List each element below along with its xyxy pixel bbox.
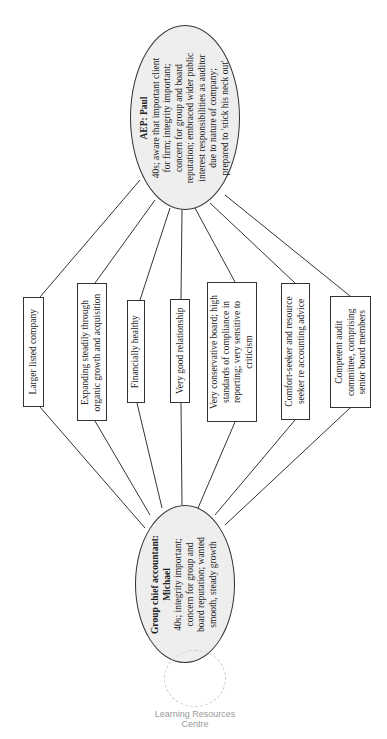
auditor-line: for firm; integrity important; — [162, 52, 174, 183]
factor-box-relationship: Very good relationship — [170, 299, 190, 403]
auditor-ellipse: AEP: Paul 40s; aware that important clie… — [130, 25, 240, 210]
factor-box-audit-committee: Competent auditcommittee, comprisingseni… — [330, 296, 371, 408]
watermark-line: Learning Resources — [150, 709, 240, 719]
auditor-line: reputation; embraced wider public — [185, 52, 197, 183]
auditor-line: due to nature of company; — [208, 52, 220, 183]
factor-text: senior board members — [356, 308, 368, 396]
auditor-line: prepared to 'stick his neck out' — [220, 52, 232, 183]
factor-text: organic growth and acquisition — [92, 293, 104, 411]
factor-text: Financially healthy — [130, 315, 142, 388]
client-line: board reputation; wanted — [197, 534, 209, 633]
factor-text: standards of compliance in — [221, 295, 233, 409]
auditor-line: 40s; aware that important client — [151, 52, 163, 183]
factor-text: seeker re accounting advice — [296, 296, 308, 406]
client-ellipse: Group chief accountant: Michael 40s; int… — [135, 505, 235, 663]
factor-text: committee, comprising — [345, 308, 357, 396]
factor-text: Very good relationship — [174, 308, 186, 395]
university-seal-icon — [164, 650, 226, 707]
client-title: Group chief accountant: — [151, 534, 163, 633]
auditor-text: AEP: Paul 40s; aware that important clie… — [139, 52, 231, 183]
factor-text: Very conservative board; high — [209, 295, 221, 409]
library-watermark: Learning Resources Centre — [150, 650, 240, 729]
client-line: 40s; integrity important; — [174, 534, 186, 633]
factor-text: Competent audit — [333, 308, 345, 396]
factor-text: Comfort-seeker and resource — [284, 296, 296, 406]
factor-text: Expanding steadily through — [81, 293, 93, 411]
factor-box-large-listed: Larger listed company — [23, 297, 44, 407]
auditor-line: interest responsibilities as auditor — [197, 52, 209, 183]
auditor-title: AEP: Paul — [139, 52, 151, 183]
watermark-line: Centre — [150, 719, 240, 729]
factor-text: criticism — [244, 295, 256, 409]
client-name: Michael — [162, 534, 174, 633]
factor-box-comfort-seeker: Comfort-seeker and resourceseeker re acc… — [281, 283, 310, 420]
client-line: smooth, steady growth — [208, 534, 220, 633]
factor-box-expanding: Expanding steadily throughorganic growth… — [77, 283, 107, 421]
auditor-line: concern for group and board — [174, 52, 186, 183]
factor-text: Larger listed company — [28, 309, 40, 394]
client-line: concern for group and — [185, 534, 197, 633]
client-text: Group chief accountant: Michael 40s; int… — [151, 534, 220, 633]
factor-box-financially-healthy: Financially healthy — [127, 300, 145, 403]
factor-box-conservative-board: Very conservative board; highstandards o… — [207, 282, 257, 422]
factor-text: reporting; very sensitive to — [232, 295, 244, 409]
